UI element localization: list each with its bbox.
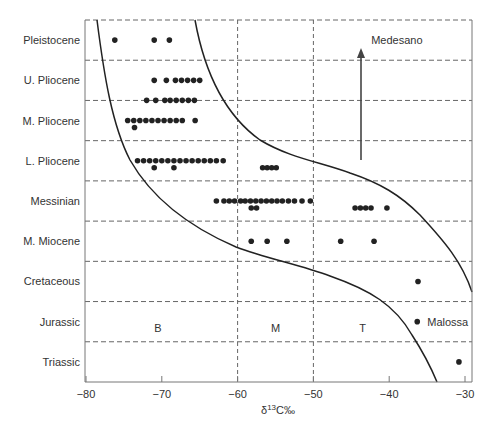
data-point bbox=[153, 98, 159, 104]
y-category-label: M. Pliocene bbox=[23, 115, 80, 127]
region-label: M bbox=[271, 322, 280, 334]
region-labels: BMT bbox=[154, 322, 366, 334]
x-tick-label: −40 bbox=[380, 388, 399, 400]
data-point bbox=[179, 118, 185, 124]
region-label: T bbox=[359, 322, 366, 334]
x-tick-label: −60 bbox=[228, 388, 247, 400]
data-point bbox=[195, 158, 201, 164]
data-point bbox=[358, 205, 364, 211]
data-point bbox=[189, 158, 195, 164]
y-category-label: Cretaceous bbox=[24, 275, 81, 287]
data-point bbox=[171, 158, 177, 164]
x-tick-label: −30 bbox=[456, 388, 475, 400]
data-point bbox=[183, 158, 189, 164]
data-point bbox=[137, 118, 143, 124]
data-point bbox=[159, 158, 165, 164]
data-point bbox=[269, 198, 275, 204]
data-point bbox=[179, 78, 185, 84]
x-tick-label: −80 bbox=[77, 388, 96, 400]
y-category-label: U. Pliocene bbox=[24, 74, 80, 86]
data-point bbox=[221, 198, 227, 204]
y-category-label: Jurassic bbox=[40, 316, 81, 328]
data-point bbox=[179, 98, 185, 104]
data-point bbox=[248, 205, 254, 211]
data-point bbox=[254, 205, 260, 211]
data-point bbox=[167, 37, 173, 43]
data-point bbox=[132, 125, 138, 131]
data-point bbox=[153, 158, 159, 164]
arrow bbox=[357, 48, 365, 160]
data-point bbox=[151, 165, 157, 171]
data-point bbox=[131, 118, 137, 124]
data-point bbox=[232, 198, 238, 204]
data-point bbox=[162, 98, 168, 104]
data-point bbox=[167, 98, 173, 104]
data-point bbox=[144, 98, 150, 104]
data-point bbox=[264, 198, 270, 204]
x-tick-label: −50 bbox=[304, 388, 323, 400]
data-point bbox=[151, 78, 157, 84]
data-point bbox=[371, 238, 377, 244]
annotation-label: Malossa bbox=[427, 316, 469, 328]
data-point bbox=[273, 165, 279, 171]
y-axis-labels: PleistoceneU. PlioceneM. PlioceneL. Plio… bbox=[23, 34, 81, 368]
data-point bbox=[155, 118, 161, 124]
data-point bbox=[173, 78, 179, 84]
data-point bbox=[149, 118, 155, 124]
data-point bbox=[284, 238, 290, 244]
data-point bbox=[363, 205, 369, 211]
data-point bbox=[264, 238, 270, 244]
y-category-label: M. Miocene bbox=[23, 235, 80, 247]
data-point bbox=[226, 198, 232, 204]
data-point bbox=[368, 205, 374, 211]
data-point bbox=[177, 158, 183, 164]
data-point bbox=[191, 78, 197, 84]
y-category-label: Triassic bbox=[43, 356, 81, 368]
data-point bbox=[135, 158, 141, 164]
data-point bbox=[258, 198, 264, 204]
data-point bbox=[299, 198, 305, 204]
data-point bbox=[186, 98, 192, 104]
data-point bbox=[201, 158, 207, 164]
data-point bbox=[214, 158, 220, 164]
scatter-chart: −80−70−60−50−40−30 PleistoceneU. Pliocen… bbox=[0, 0, 495, 428]
data-point bbox=[125, 118, 131, 124]
data-point bbox=[280, 198, 286, 204]
curve-m-t bbox=[195, 20, 472, 292]
data-point bbox=[286, 198, 292, 204]
data-point bbox=[292, 198, 298, 204]
data-point bbox=[220, 158, 226, 164]
data-point bbox=[415, 279, 421, 285]
data-point bbox=[192, 98, 198, 104]
data-point bbox=[167, 118, 173, 124]
x-axis-ticks: −80−70−60−50−40−30 bbox=[77, 376, 475, 400]
x-tick-label: −70 bbox=[152, 388, 171, 400]
data-point bbox=[242, 198, 248, 204]
data-point bbox=[164, 78, 170, 84]
data-point bbox=[141, 158, 147, 164]
data-point bbox=[214, 198, 220, 204]
data-point bbox=[308, 198, 314, 204]
data-point bbox=[147, 158, 153, 164]
y-category-label: Pleistocene bbox=[23, 34, 80, 46]
data-point bbox=[414, 319, 420, 325]
y-category-label: L. Pliocene bbox=[26, 155, 80, 167]
x-axis-label: δ13C‰ bbox=[261, 403, 295, 416]
data-point bbox=[161, 118, 167, 124]
data-point bbox=[384, 205, 390, 211]
y-category-label: Messinian bbox=[30, 195, 80, 207]
data-points bbox=[112, 37, 462, 364]
data-point bbox=[165, 158, 171, 164]
data-point bbox=[253, 198, 259, 204]
region-label: B bbox=[154, 322, 161, 334]
data-point bbox=[248, 238, 254, 244]
data-point bbox=[338, 238, 344, 244]
data-point bbox=[171, 165, 177, 171]
data-point bbox=[173, 98, 179, 104]
data-point bbox=[274, 198, 280, 204]
data-point bbox=[208, 158, 214, 164]
data-point bbox=[197, 78, 203, 84]
data-point bbox=[173, 118, 179, 124]
annotation-label: Medesano bbox=[371, 34, 422, 46]
data-point bbox=[185, 78, 191, 84]
